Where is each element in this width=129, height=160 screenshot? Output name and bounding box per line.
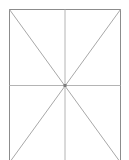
center-point (64, 84, 67, 87)
diagram-canvas (0, 0, 129, 160)
